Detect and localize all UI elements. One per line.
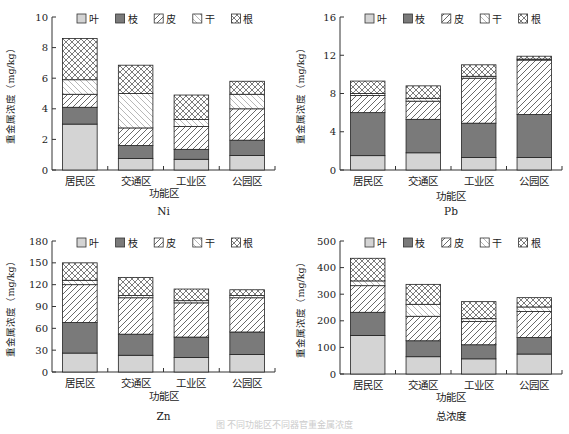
segment-branch <box>462 123 496 157</box>
segment-leaf <box>462 158 496 170</box>
x-tick-label: 工业区 <box>176 175 206 187</box>
segment-bark <box>351 286 385 313</box>
segment-root <box>517 298 551 307</box>
legend-label: 叶 <box>377 238 387 249</box>
segment-trunk <box>406 304 440 316</box>
bar-工业区 <box>462 302 496 374</box>
segment-branch <box>406 341 440 357</box>
legend-swatch-branch <box>116 14 125 23</box>
segment-root <box>406 284 440 304</box>
x-tick-label: 公园区 <box>232 175 262 187</box>
x-tick-label: 公园区 <box>232 377 262 389</box>
segment-root <box>230 290 265 296</box>
x-tick-label: 工业区 <box>176 377 206 389</box>
segment-leaf <box>63 353 98 372</box>
legend-swatch-trunk <box>193 14 202 23</box>
x-tick-label: 工业区 <box>464 175 494 187</box>
legend-label: 枝 <box>415 13 425 25</box>
bar-工业区 <box>174 95 209 170</box>
segment-leaf <box>230 355 265 372</box>
segment-leaf <box>63 124 98 170</box>
legend-swatch-branch <box>403 14 412 23</box>
segment-root <box>118 277 153 295</box>
segment-root <box>406 86 440 98</box>
bar-工业区 <box>462 65 496 170</box>
x-tick-label: 交通区 <box>408 175 438 187</box>
segment-root <box>63 38 98 79</box>
svg-text:0: 0 <box>42 165 48 176</box>
segment-branch <box>174 337 209 357</box>
segment-root <box>174 289 209 301</box>
svg-text:400: 400 <box>317 262 336 273</box>
y-axis-label: 重金属浓度（mg/kg） <box>5 43 16 143</box>
chart-pb: 0481216居民区交通区工业区公园区叶枝皮干根重金属浓度（mg/kg）功能区P… <box>290 0 569 220</box>
segment-bark <box>118 298 153 334</box>
bar-交通区 <box>406 86 440 170</box>
segment-root <box>351 81 385 93</box>
legend-swatch-leaf <box>365 14 374 23</box>
x-tick-label: 公园区 <box>519 175 549 187</box>
segment-trunk <box>462 319 496 322</box>
svg-text:10: 10 <box>35 12 48 23</box>
x-tick-label: 居民区 <box>65 377 95 389</box>
legend-swatch-bark <box>442 14 451 23</box>
segment-leaf <box>174 159 209 170</box>
segment-bark <box>118 128 153 146</box>
legend-label: 枝 <box>128 13 138 25</box>
segment-trunk <box>118 94 153 128</box>
bar-交通区 <box>406 284 440 374</box>
legend-swatch-root <box>231 238 240 247</box>
chart-total: 0100200300400500居民区交通区工业区公园区叶枝皮干根重金属浓度（m… <box>290 225 569 434</box>
legend-label: 干 <box>205 14 215 25</box>
bar-交通区 <box>118 65 153 170</box>
legend: 叶枝皮干根 <box>365 13 541 25</box>
legend-label: 干 <box>492 14 502 25</box>
segment-root <box>517 56 551 59</box>
legend-label: 皮 <box>454 13 464 25</box>
segment-leaf <box>118 355 153 372</box>
segment-trunk <box>63 280 98 284</box>
segment-branch <box>118 334 153 355</box>
x-tick-label: 居民区 <box>353 379 383 391</box>
segment-bark <box>406 316 440 340</box>
bar-公园区 <box>230 290 265 372</box>
x-tick-label: 公园区 <box>519 379 549 391</box>
bar-居民区 <box>351 81 385 170</box>
svg-text:8: 8 <box>330 88 336 99</box>
segment-leaf <box>462 359 496 374</box>
segment-branch <box>406 119 440 152</box>
segment-branch <box>462 345 496 359</box>
segment-branch <box>63 323 98 354</box>
svg-text:500: 500 <box>317 236 336 247</box>
segment-leaf <box>174 357 209 372</box>
segment-branch <box>63 107 98 124</box>
legend-label: 皮 <box>166 237 176 249</box>
segment-leaf <box>406 153 440 170</box>
segment-bark <box>230 109 265 140</box>
x-tick-label: 居民区 <box>353 175 383 187</box>
svg-text:0: 0 <box>330 165 336 176</box>
svg-text:2: 2 <box>42 134 48 145</box>
y-axis-label: 重金属浓度（mg/kg） <box>295 257 306 357</box>
svg-text:60: 60 <box>35 323 48 334</box>
svg-text:6: 6 <box>42 73 48 84</box>
segment-bark <box>517 60 551 115</box>
segment-bark <box>63 94 98 107</box>
svg-text:120: 120 <box>29 279 48 290</box>
segment-leaf <box>118 159 153 170</box>
x-tick-label: 居民区 <box>65 175 95 187</box>
svg-text:150: 150 <box>29 257 48 268</box>
legend-swatch-leaf <box>365 238 374 247</box>
legend: 叶枝皮干根 <box>77 13 253 25</box>
segment-bark <box>462 78 496 123</box>
svg-text:0: 0 <box>42 367 48 378</box>
legend-label: 皮 <box>166 13 176 25</box>
segment-root <box>462 65 496 76</box>
svg-text:30: 30 <box>35 345 48 356</box>
segment-branch <box>230 332 265 355</box>
legend-label: 根 <box>531 13 541 25</box>
svg-text:100: 100 <box>317 342 336 353</box>
segment-trunk <box>517 307 551 312</box>
legend-label: 根 <box>243 13 253 25</box>
svg-text:180: 180 <box>29 236 48 247</box>
